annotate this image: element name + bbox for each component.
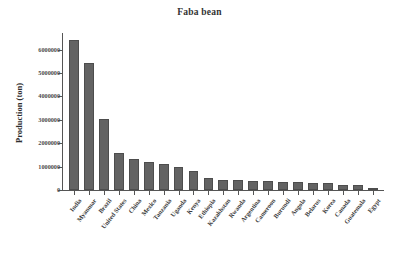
x-tick-mark bbox=[313, 191, 314, 195]
x-tick-mark bbox=[193, 191, 194, 195]
y-axis-title: Production (ton) bbox=[14, 53, 24, 173]
x-tick-mark bbox=[268, 191, 269, 195]
x-tick-mark bbox=[223, 191, 224, 195]
x-tick-mark bbox=[119, 191, 120, 195]
bar bbox=[278, 182, 288, 190]
bar bbox=[129, 159, 139, 190]
x-tick-mark bbox=[104, 191, 105, 195]
y-tick: 5000000 bbox=[62, 73, 63, 74]
x-tick-mark bbox=[253, 191, 254, 195]
x-tick-label: Egypt bbox=[366, 197, 382, 214]
bar bbox=[323, 183, 333, 190]
x-tick-mark bbox=[373, 191, 374, 195]
bar bbox=[218, 180, 228, 190]
x-tick-mark bbox=[343, 191, 344, 195]
y-tick-label: 5000000 bbox=[38, 69, 60, 76]
bar bbox=[338, 185, 348, 190]
bar bbox=[99, 119, 109, 190]
chart-figure: Faba bean Production (ton) 0100000020000… bbox=[0, 0, 399, 255]
y-tick: 0 bbox=[62, 190, 63, 191]
y-tick: 1000000 bbox=[62, 167, 63, 168]
x-tick-mark bbox=[298, 191, 299, 195]
x-tick-mark bbox=[134, 191, 135, 195]
bar bbox=[248, 181, 258, 190]
y-tick: 3000000 bbox=[62, 120, 63, 121]
x-tick-mark bbox=[179, 191, 180, 195]
bar bbox=[84, 63, 94, 190]
x-tick-mark bbox=[238, 191, 239, 195]
bar bbox=[353, 185, 363, 190]
plot-area: 0100000020000003000000400000050000006000… bbox=[62, 36, 384, 191]
x-tick-mark bbox=[89, 191, 90, 195]
bar bbox=[114, 153, 124, 190]
x-tick-mark bbox=[328, 191, 329, 195]
bar bbox=[263, 181, 273, 190]
x-tick-mark bbox=[149, 191, 150, 195]
y-tick: 2000000 bbox=[62, 143, 63, 144]
bar bbox=[69, 40, 79, 190]
x-tick-mark bbox=[358, 191, 359, 195]
y-tick-label: 2000000 bbox=[38, 139, 60, 146]
bar bbox=[144, 162, 154, 190]
x-tick-mark bbox=[283, 191, 284, 195]
x-tick-mark bbox=[74, 191, 75, 195]
bar bbox=[308, 183, 318, 190]
bar bbox=[159, 164, 169, 190]
bar bbox=[233, 180, 243, 190]
y-tick-label: 3000000 bbox=[38, 116, 60, 123]
bar bbox=[368, 188, 378, 190]
y-tick-label: 6000000 bbox=[38, 46, 60, 53]
y-tick-label: 1000000 bbox=[38, 163, 60, 170]
y-tick: 6000000 bbox=[62, 50, 63, 51]
bar bbox=[174, 167, 184, 190]
y-tick-label: 0 bbox=[57, 186, 60, 193]
bar bbox=[204, 178, 214, 190]
bar bbox=[189, 171, 199, 190]
x-tick-mark bbox=[164, 191, 165, 195]
chart-title: Faba bean bbox=[0, 7, 399, 17]
bar bbox=[293, 182, 303, 190]
y-tick-label: 4000000 bbox=[38, 92, 60, 99]
x-tick-mark bbox=[208, 191, 209, 195]
y-tick: 4000000 bbox=[62, 96, 63, 97]
